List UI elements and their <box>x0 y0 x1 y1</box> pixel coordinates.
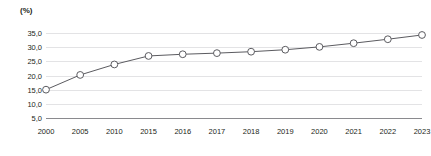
data-point-marker <box>316 43 323 50</box>
line-series <box>0 0 431 156</box>
data-point-marker <box>145 53 152 60</box>
data-point-marker <box>419 32 426 39</box>
data-point-marker <box>282 46 289 53</box>
data-point-marker <box>384 36 391 43</box>
chart-screenshot: (%) 35,030,025,020,015,010,05,0 20002005… <box>0 0 431 156</box>
series-marker-group <box>43 32 426 93</box>
data-point-marker <box>248 48 255 55</box>
data-point-marker <box>43 86 50 93</box>
data-point-marker <box>350 40 357 47</box>
data-point-marker <box>111 61 118 68</box>
data-point-marker <box>77 72 84 79</box>
series-line-path <box>46 35 422 90</box>
data-point-marker <box>214 50 221 57</box>
data-point-marker <box>179 51 186 58</box>
